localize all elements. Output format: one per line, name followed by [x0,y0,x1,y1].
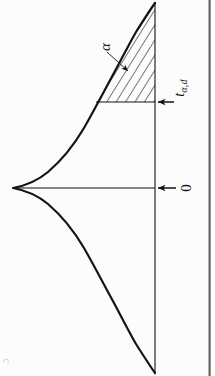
page-corner-fragment: ɔ [0,352,14,364]
t-critical-base: t [172,93,187,97]
t-critical-label: tα,d [173,64,193,112]
t-distribution-figure: α 0 tα,d ɔ [0,0,215,376]
page-margin [211,0,215,376]
alpha-label: α [98,38,116,56]
t-critical-subscript: α,d [178,79,189,92]
page-edge-line [209,0,211,376]
zero-label: 0 [179,178,197,198]
